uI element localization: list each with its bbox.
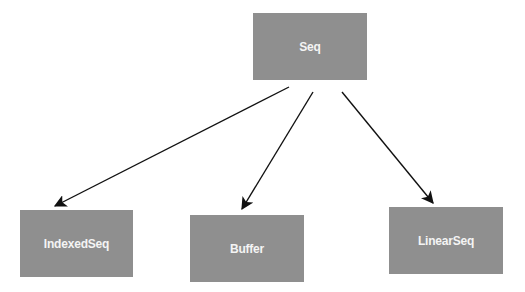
node-seq: Seq [253, 13, 367, 80]
edge-seq-to-buffer [242, 92, 313, 209]
node-linearseq: LinearSeq [389, 207, 503, 274]
node-indexedseq-label: IndexedSeq [44, 237, 109, 251]
node-buffer-label: Buffer [230, 242, 264, 256]
edge-seq-to-linearseq [342, 92, 433, 203]
node-seq-label: Seq [299, 40, 320, 54]
node-buffer: Buffer [190, 215, 304, 282]
node-indexedseq: IndexedSeq [20, 210, 133, 277]
node-linearseq-label: LinearSeq [418, 234, 474, 248]
